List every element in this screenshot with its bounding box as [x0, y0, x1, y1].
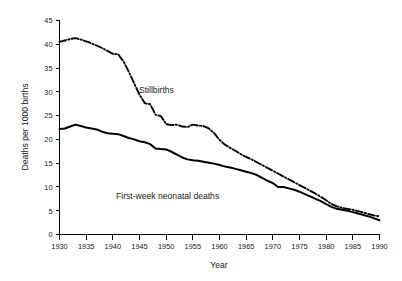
chart-figure: 051015202530354045 193019351940194519501…	[0, 0, 402, 281]
y-tick-label: 35	[44, 64, 52, 73]
y-tick-label: 5	[48, 207, 52, 216]
x-tick-label: 1980	[318, 242, 334, 251]
x-tick-label: 1990	[371, 242, 387, 251]
x-axis-tick-labels: 1930193519401945195019551960196519701975…	[51, 242, 387, 251]
x-tick-label: 1970	[265, 242, 281, 251]
x-tick-label: 1985	[345, 242, 361, 251]
series-annotations: Stillbirths First-week neonatal deaths	[116, 85, 219, 201]
y-tick-label: 0	[48, 230, 52, 239]
x-tick-label: 1950	[158, 242, 174, 251]
y-axis-tick-labels: 051015202530354045	[44, 16, 52, 239]
y-tick-label: 15	[44, 159, 52, 168]
x-tick-label: 1975	[291, 242, 307, 251]
x-tick-label: 1930	[51, 242, 67, 251]
y-axis-title: Deaths per 1000 births	[20, 84, 30, 171]
y-tick-label: 10	[44, 183, 52, 192]
y-tick-label: 45	[44, 16, 52, 25]
x-tick-label: 1940	[105, 242, 121, 251]
x-tick-label: 1935	[78, 242, 94, 251]
x-tick-label: 1945	[131, 242, 147, 251]
series-line-first-week-neonatal-deaths	[60, 125, 380, 221]
y-tick-label: 20	[44, 135, 52, 144]
x-tick-label: 1965	[238, 242, 254, 251]
x-axis-ticks	[60, 235, 380, 240]
y-tick-label: 40	[44, 40, 52, 49]
y-axis-ticks	[56, 21, 60, 235]
y-tick-label: 30	[44, 88, 52, 97]
line-chart-svg: 051015202530354045 193019351940194519501…	[0, 0, 402, 281]
x-tick-label: 1960	[211, 242, 227, 251]
x-axis: 1930193519401945195019551960196519701975…	[51, 235, 387, 251]
y-tick-label: 25	[44, 111, 52, 120]
series-label-first-week-neonatal-deaths: First-week neonatal deaths	[116, 191, 219, 201]
plot-series	[60, 38, 380, 220]
x-axis-title: Year	[210, 260, 228, 270]
series-line-stillbirths	[60, 38, 380, 216]
y-axis: 051015202530354045	[44, 16, 59, 239]
series-label-stillbirths: Stillbirths	[139, 85, 174, 95]
x-tick-label: 1955	[185, 242, 201, 251]
